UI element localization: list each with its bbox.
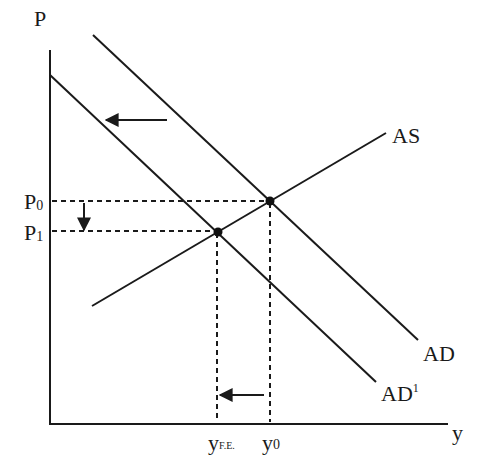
- equilibrium-e0: [266, 197, 275, 206]
- ad-curve: [93, 35, 418, 340]
- as-curve: [92, 133, 386, 306]
- ad1-label: AD1: [381, 381, 419, 406]
- p0-label: P0: [24, 189, 43, 214]
- ad-as-diagram: P y AS AD AD1 P0 P1 yF.E. y0: [0, 0, 486, 472]
- ad-label: AD: [423, 341, 455, 366]
- yfe-label: yF.E.: [208, 430, 235, 455]
- y0-label: y0: [262, 430, 280, 455]
- price-axis-label: P: [34, 6, 46, 31]
- as-label: AS: [392, 123, 420, 148]
- axes: [49, 50, 448, 424]
- p1-label: P1: [24, 220, 43, 245]
- guide-lines: [52, 201, 270, 422]
- equilibrium-e1: [214, 228, 223, 237]
- ad1-curve: [50, 75, 376, 382]
- output-axis-label: y: [452, 420, 463, 445]
